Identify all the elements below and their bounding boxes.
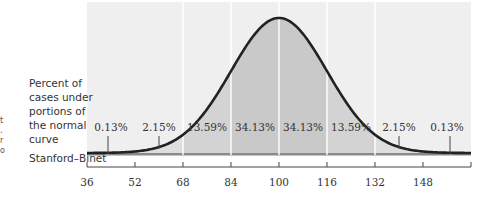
x-axis: 36526884100116132148: [80, 162, 471, 188]
y-label-line: portions of: [29, 104, 99, 118]
x-tick-label: 68: [176, 176, 189, 188]
x-tick-label: 36: [80, 176, 94, 188]
edge-glyph: .: [0, 126, 5, 136]
x-tick-label: 100: [269, 176, 289, 188]
x-tick-label: 84: [224, 176, 238, 188]
segment-percent-label: 0.13%: [94, 121, 127, 133]
edge-glyph: r: [0, 136, 5, 146]
x-tick-label: 132: [365, 176, 385, 188]
segment-percent-label: 13.59%: [187, 121, 227, 133]
scale-name-label: Stanford–Binet: [29, 152, 106, 164]
edge-glyph: t: [0, 116, 5, 126]
x-tick-label: 116: [317, 176, 337, 188]
y-label-line: Percent of: [29, 76, 99, 90]
edge-glyph: o: [0, 146, 5, 156]
segment-percent-label: 34.13%: [283, 121, 323, 133]
segment-percent-label: 13.59%: [331, 121, 371, 133]
segment-percent-label: 2.15%: [382, 121, 415, 133]
y-label-line: the normal: [29, 118, 99, 132]
segment-percent-label: 34.13%: [235, 121, 275, 133]
cropped-edge-text: t . r o: [0, 116, 5, 156]
y-axis-label: Percent of cases under portions of the n…: [29, 76, 99, 146]
segment-percent-label: 2.15%: [142, 121, 175, 133]
y-label-line: cases under: [29, 90, 99, 104]
x-tick-label: 148: [413, 176, 433, 188]
y-label-line: curve: [29, 132, 99, 146]
x-tick-label: 52: [128, 176, 141, 188]
segment-percent-label: 0.13%: [430, 121, 463, 133]
